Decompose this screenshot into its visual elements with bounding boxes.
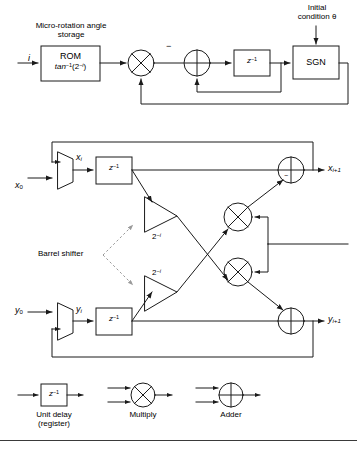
rom-block-label: ROM tan−1(2−i) [41, 51, 100, 72]
legend-adder-caption: Adder [197, 411, 265, 420]
barrel-shifter-pointer-lines [103, 225, 133, 285]
rom-caption: Micro-rotation angle storage [21, 22, 121, 40]
lower-multiplier-to-y-adder [248, 282, 283, 310]
upper-multiplier-to-x-adder [248, 180, 283, 207]
angle-adder-minus-sign: − [166, 41, 171, 51]
y0-label: y0 [15, 305, 23, 316]
legend-unit-delay-caption: Unit delay (register) [4, 411, 104, 429]
lower-shifter-to-upper-multiplier [177, 229, 228, 292]
x-adder-minus-sign: − [284, 172, 288, 180]
y-delay-label: z−1 [96, 314, 132, 324]
legend-adder-symbol [219, 383, 243, 407]
angle-delay-label: z−1 [234, 56, 270, 66]
yi-label: yi [76, 304, 82, 315]
x-adder [278, 157, 304, 183]
x0-label: x0 [15, 180, 23, 191]
xi-label: xi [76, 152, 82, 163]
xi-to-shifter-wire [132, 170, 152, 202]
barrel-shifter-label: Barrel shifter [38, 250, 83, 259]
rom-formula: tan−1(2−i) [55, 62, 87, 71]
sign-control-bus [255, 217, 348, 272]
yi-to-shifter-wire [132, 292, 152, 321]
sgn-to-angle-multiplier-feedback [141, 63, 348, 104]
footer-divider [0, 440, 357, 441]
x-feedback-loop [52, 142, 313, 170]
y-output-label: yi+1 [328, 314, 341, 325]
x-mux [58, 152, 73, 189]
lower-barrel-shifter [145, 276, 177, 311]
upper-shifter-to-lower-multiplier [177, 216, 228, 280]
cordic-block-diagram-figure: Micro-rotation angle storage i ROM tan−1… [0, 0, 357, 455]
legend-delay-symbol-label: z−1 [41, 389, 67, 399]
y-adder [278, 308, 304, 334]
lower-shift-factor-label: 2−i [152, 268, 161, 278]
sgn-block-label: SGN [293, 57, 339, 67]
legend-multiply-symbol [131, 383, 155, 407]
initial-condition-label: Initial condition θ [280, 4, 354, 22]
upper-barrel-shifter [145, 197, 177, 232]
angle-multiplier [128, 50, 154, 76]
y-feedback-loop [52, 321, 313, 357]
x-output-label: xi+1 [328, 163, 341, 174]
legend-multiply-caption: Multiply [108, 411, 178, 420]
y-mux [58, 303, 73, 340]
angle-adder [184, 50, 210, 76]
upper-shift-factor-label: 2−i [152, 232, 161, 242]
x-delay-label: z−1 [96, 163, 132, 173]
input-i-label: i [28, 53, 30, 63]
